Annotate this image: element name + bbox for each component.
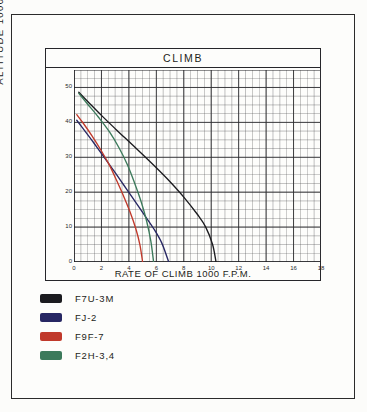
- x-tick-label: 0: [68, 265, 80, 271]
- x-tick-label: 18: [315, 265, 327, 271]
- y-tick-label: 50: [61, 83, 72, 89]
- y-axis-title: ALTITUDE 1000 FT: [0, 0, 5, 112]
- x-tick-label: 16: [288, 265, 300, 271]
- series-line-3: [79, 93, 154, 262]
- chart-legend: F7U-3MFJ-2F9F-7F2H-3,4: [40, 289, 240, 365]
- legend-label: F7U-3M: [75, 293, 114, 304]
- x-tick-label: 6: [150, 265, 162, 271]
- legend-swatch-icon: [40, 294, 62, 303]
- legend-label: F2H-3,4: [75, 350, 115, 361]
- y-tick-label: 0: [61, 258, 72, 264]
- y-tick-label: 10: [61, 223, 72, 229]
- series-line-1: [77, 120, 169, 262]
- legend-item-3[interactable]: F2H-3,4: [40, 346, 240, 365]
- chart-page: CLIMB RATE OF CLIMB 1000 F.P.M. ALTITUDE…: [0, 0, 367, 412]
- y-tick-label: 20: [61, 188, 72, 194]
- legend-item-2[interactable]: F9F-7: [40, 327, 240, 346]
- legend-swatch-icon: [40, 332, 62, 341]
- y-tick-label: 30: [61, 153, 72, 159]
- chart-title-bar: CLIMB: [46, 49, 320, 68]
- y-tick-label: 40: [61, 118, 72, 124]
- legend-item-1[interactable]: FJ-2: [40, 308, 240, 327]
- x-tick-label: 10: [205, 265, 217, 271]
- legend-label: F9F-7: [75, 331, 104, 342]
- x-tick-label: 4: [123, 265, 135, 271]
- chart-canvas: [74, 70, 321, 262]
- x-tick-label: 12: [233, 265, 245, 271]
- series-line-2: [77, 115, 143, 262]
- plot-area: 02468101214161801020304050: [74, 70, 321, 262]
- x-tick-label: 14: [260, 265, 272, 271]
- data-series-group: [77, 92, 216, 262]
- legend-swatch-icon: [40, 351, 62, 360]
- legend-item-0[interactable]: F7U-3M: [40, 289, 240, 308]
- x-tick-label: 2: [95, 265, 107, 271]
- legend-label: FJ-2: [75, 312, 97, 323]
- chart-title: CLIMB: [163, 52, 203, 64]
- x-tick-label: 8: [178, 265, 190, 271]
- legend-swatch-icon: [40, 313, 62, 322]
